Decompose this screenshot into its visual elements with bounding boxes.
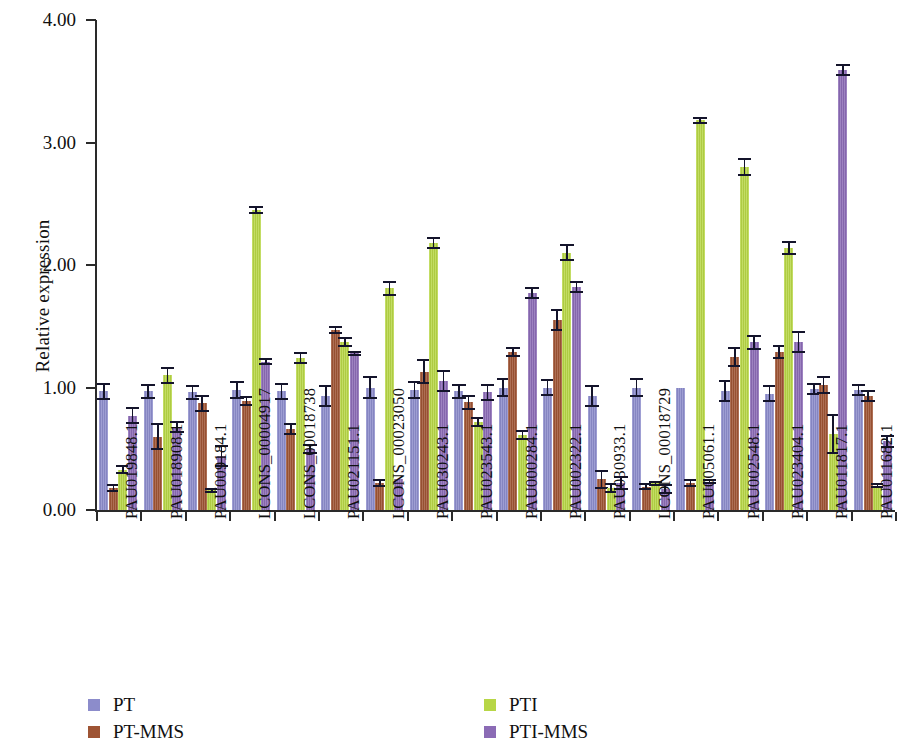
legend-label: PT [113,694,135,716]
y-tick-mark [86,142,96,144]
x-axis-labels: PAU019848.1PAU018908.1PAU009184.1LCONS_0… [0,0,899,747]
x-tick-label: PAU019848.1 [124,423,141,519]
legend-item-pt[interactable]: PT [88,694,135,716]
legend-swatch-icon [88,699,100,711]
legend-label: PTI-MMS [509,721,588,743]
x-tick-label: PAU005061.1 [701,423,718,519]
x-tick-label: PAU011682.1 [879,424,896,519]
x-tick-label: PAU030243.1 [435,423,452,519]
legend-item-pt-mms[interactable]: PT-MMS [88,721,184,743]
x-tick-label: PAU030933.1 [612,423,629,519]
x-tick-label: PAU021151.1 [346,424,363,519]
legend-swatch-icon [484,726,496,738]
y-tick-mark [86,264,96,266]
x-tick-label: LCONS_00018729 [657,388,674,519]
x-tick-label: PAU002322.1 [568,423,585,519]
y-tick-mark [86,19,96,21]
x-tick-label: PAU023543.1 [479,423,496,519]
legend-item-pti-mms[interactable]: PTI-MMS [484,721,588,743]
x-tick-label: PAU018908.1 [169,423,186,519]
y-tick-mark [86,387,96,389]
x-tick-label: LCONS_00018738 [302,388,319,519]
chart-legend: PTPT-MMSPTIPTI-MMS [0,694,899,747]
x-tick-label: PAU011817.1 [834,424,851,519]
x-tick-label: LCONS_00004917 [257,388,274,519]
legend-swatch-icon [88,726,100,738]
legend-item-pti[interactable]: PTI [484,694,538,716]
legend-label: PT-MMS [113,721,184,743]
legend-swatch-icon [484,699,496,711]
relative-expression-bar-chart: Relative expression 0.001.002.003.004.00… [0,0,899,747]
x-tick-label: PAU002548.1 [746,423,763,519]
x-tick-label: PAU009184.1 [213,423,230,519]
x-tick-label: LCONS_00023050 [391,388,408,519]
x-tick-label: PAU023404.1 [790,423,807,519]
x-tick-label: PAU000284.1 [524,423,541,519]
legend-label: PTI [509,694,538,716]
y-tick-mark [86,509,96,511]
